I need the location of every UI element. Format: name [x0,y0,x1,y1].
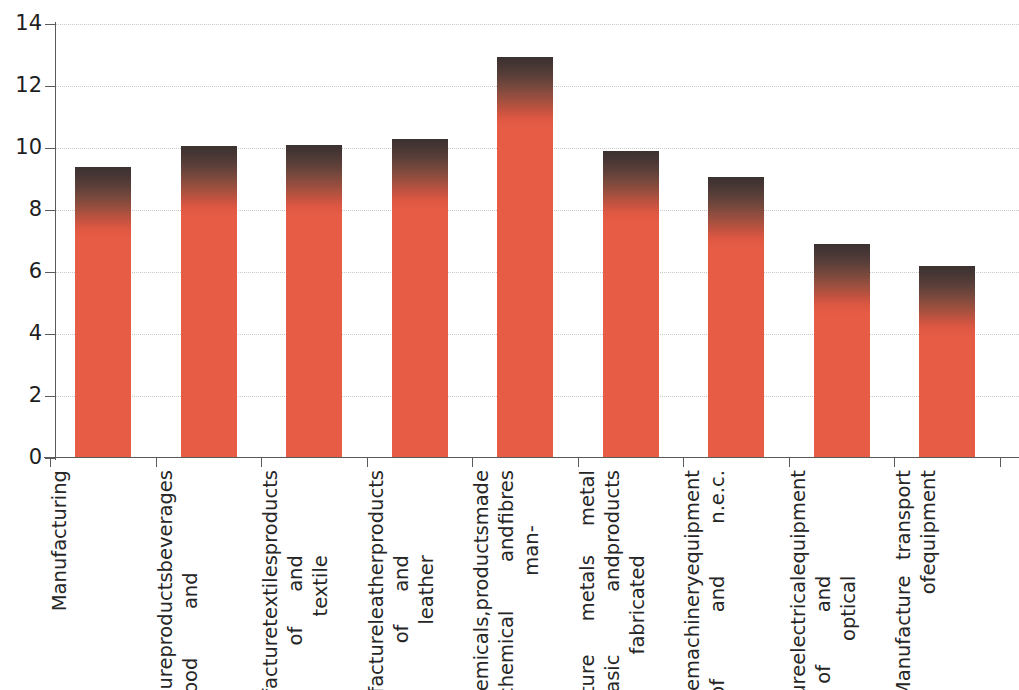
x-axis-label: Manufacture ofmachinery andequipment n.e… [680,470,792,680]
bar[interactable] [708,177,764,458]
y-tick-mark [45,334,56,335]
y-tick-label: 14 [0,13,42,34]
x-tick-mark [261,458,262,467]
bar[interactable] [392,139,448,458]
y-tick-label: 12 [0,75,42,96]
y-tick-mark [45,210,56,211]
bar-fill [603,151,659,458]
bar[interactable] [75,167,131,458]
x-tick-mark [472,458,473,467]
x-axis-label-line: products and [153,572,203,657]
x-tick-mark [578,458,579,467]
bar-fill [181,146,237,458]
bar-chart: 02468101214 ManufacturingManufacture of … [0,0,1019,690]
y-tick-label: 2 [0,385,42,406]
x-axis-label-line: textiles and textile [258,555,333,626]
y-tick-label: 10 [0,137,42,158]
x-axis-label-line: Manufacture of [891,576,941,690]
bar-fill [814,244,870,458]
y-axis-line [55,22,56,460]
x-axis-label-line: made fibres [469,470,519,525]
bar-fill [919,266,975,458]
bar-fill [286,145,342,458]
x-axis-label-line: machinery and [680,576,730,679]
x-axis-label-line: equipment [786,470,811,576]
x-axis-label-line: metal products [575,470,625,555]
bar-fill [75,167,131,458]
x-tick-mark [789,458,790,467]
x-axis-label: Manufacture of basicmetals and fabricate… [575,470,687,680]
bar[interactable] [919,266,975,458]
y-tick-label: 0 [0,447,42,468]
x-axis-label-line: Manufacture of [258,627,308,690]
y-tick-mark [45,24,56,25]
x-axis-label-line: transport equipment [891,470,941,576]
x-axis-label: Manufacture ofleather and leatherproduct… [364,470,476,680]
x-axis-label-line: products and man- [469,525,544,610]
y-tick-mark [45,148,56,149]
x-axis-label-line: products [258,470,283,555]
bar[interactable] [814,244,870,458]
bar-fill [392,139,448,458]
y-tick-mark [45,86,56,87]
x-tick-mark [367,458,368,467]
x-axis-label-line: chemicals, chemical [469,611,519,690]
x-axis-label: Manufacture oftransport equipment [891,470,1003,680]
x-tick-mark [156,458,157,467]
x-tick-mark [50,458,51,467]
x-axis-label-line: metals and fabricated [575,555,650,654]
bar-fill [708,177,764,458]
bar[interactable] [497,57,553,458]
x-axis-label-line: Manufacture of [786,665,836,690]
bar-fill [497,57,553,458]
x-axis-label: Manufacturing [47,470,159,680]
x-axis-label-line: beverages [153,470,178,572]
x-axis-label-line: Manufacture of food [153,658,203,690]
x-axis-label: Manufacture oftextiles and textileproduc… [258,470,370,680]
x-tick-mark [894,458,895,467]
y-tick-label: 4 [0,323,42,344]
y-tick-label: 8 [0,199,42,220]
x-axis-label: Manufacture ofelectrical and opticalequi… [786,470,898,680]
x-axis-label-line: Manufacture of basic [575,654,625,690]
x-tick-mark [683,458,684,467]
bar[interactable] [603,151,659,458]
y-tick-mark [45,272,56,273]
x-tick-mark [1000,458,1001,467]
y-tick-label: 6 [0,261,42,282]
x-axis-line [44,457,1019,458]
x-axis-label-line: products [364,470,389,555]
x-axis-label-line: Manufacturing [47,470,72,611]
bar[interactable] [286,145,342,458]
bar[interactable] [181,146,237,458]
x-axis-label-line: leather and leather [364,555,439,624]
x-axis-label: Manufacture of foodproducts andbeverages [153,470,265,680]
x-axis-label-line: equipment n.e.c. [680,470,730,576]
x-axis-label-line: Manufacture of [680,679,730,690]
y-tick-mark [45,396,56,397]
x-axis-label-line: electrical and optical [786,576,861,665]
x-axis-label: Manufacture ofchemicals, chemicalproduct… [469,470,581,680]
plot-area [0,0,1019,458]
x-axis-label-line: Manufacture of [364,625,414,690]
